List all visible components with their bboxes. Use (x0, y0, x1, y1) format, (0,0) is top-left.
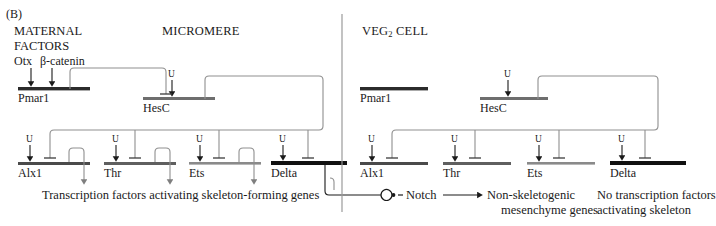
notch-receptor-icon (381, 189, 403, 200)
output-ets-left (239, 148, 254, 182)
gene-bar-ets-left (189, 162, 261, 165)
right-panel-title: VEG2 CELL (362, 24, 428, 40)
gene-label-delta-left: Delta (271, 167, 297, 180)
gene-bar-pmar1-left (18, 87, 90, 90)
gene-bar-hesc-left (143, 97, 215, 100)
right-panel-title-tail: CELL (393, 24, 428, 38)
gene-label-alx1-left: Alx1 (18, 167, 42, 180)
u-label-ets-right: U (535, 134, 542, 145)
u-label-alx1-left: U (26, 134, 33, 145)
left-panel-title: MICROMERE (162, 24, 240, 38)
gene-label-thr-left: Thr (104, 167, 121, 180)
gene-bar-alx1-left (18, 162, 90, 165)
gene-label-thr-right: Thr (443, 167, 460, 180)
gene-bar-delta-right (610, 161, 686, 165)
u-label-hesc-right: U (504, 69, 511, 80)
gene-label-delta-right: Delta (610, 167, 636, 180)
right-panel-title-main: VEG (362, 24, 388, 38)
figure-panel-label: (B) (6, 8, 22, 21)
notch-label: Notch (406, 188, 437, 202)
gene-label-hesc-right: HesC (480, 102, 507, 115)
caption-hook-left (330, 178, 334, 190)
gene-label-ets-left: Ets (189, 167, 204, 180)
input-label-beta-catenin: β-catenin (40, 55, 85, 68)
input-label-otx: Otx (14, 55, 32, 68)
u-label-delta-right: U (618, 134, 625, 145)
u-label-alx1-right: U (368, 134, 375, 145)
maternal-factors-line1: MATERNAL (14, 24, 82, 38)
right-panel-caption-line2: activating skeleton (597, 203, 691, 217)
u-label-ets-left: U (196, 134, 203, 145)
gene-label-ets-right: Ets (527, 167, 542, 180)
u-label-thr-left: U (112, 134, 119, 145)
gene-bar-ets-right (527, 162, 595, 165)
u-label-thr-right: U (451, 134, 458, 145)
u-label-delta-left: U (279, 134, 286, 145)
gene-bar-alx1-right (360, 162, 428, 165)
maternal-factors-line2: FACTORS (14, 39, 69, 53)
gene-label-pmar1-right: Pmar1 (360, 92, 391, 105)
gene-label-pmar1-left: Pmar1 (18, 92, 49, 105)
gene-bar-delta-left (271, 161, 347, 165)
gene-bar-thr-left (104, 162, 176, 165)
gene-label-hesc-left: HesC (143, 102, 170, 115)
gene-bar-pmar1-right (360, 87, 428, 90)
gene-label-alx1-right: Alx1 (360, 167, 384, 180)
left-panel-caption: Transcription factors activating skeleto… (42, 188, 319, 202)
gene-bar-thr-right (443, 162, 511, 165)
right-panel-caption-line1: No transcription factors (597, 188, 716, 202)
notch-target-line1: Non-skeletogenic (487, 188, 575, 202)
notch-target-line2: mesenchyme genes (501, 203, 598, 217)
u-label-hesc-left: U (168, 69, 175, 80)
